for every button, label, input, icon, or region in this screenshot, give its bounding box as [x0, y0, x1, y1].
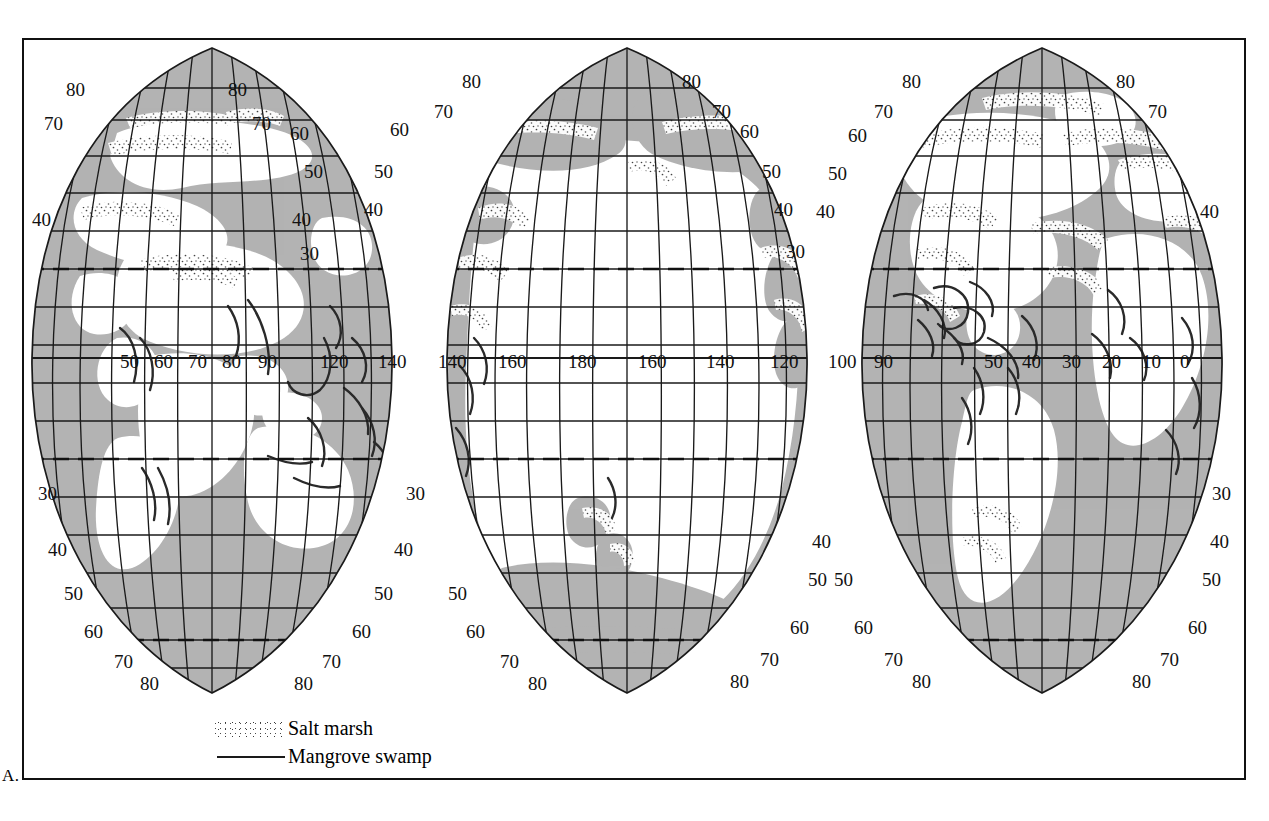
lat-label: 50	[64, 583, 83, 604]
lon-label: 180	[568, 351, 597, 372]
lat-label: 50	[374, 161, 393, 182]
lat-label: 30	[406, 483, 425, 504]
lat-label: 70	[252, 113, 271, 134]
lobe-3-americas-africa	[852, 38, 1246, 780]
lat-label: 40	[32, 209, 51, 230]
lon-label: 160	[498, 351, 527, 372]
lon-label: 90	[258, 351, 277, 372]
lat-label: 50	[834, 569, 853, 590]
lon-label: 100	[828, 351, 857, 372]
lat-label: 50	[304, 161, 323, 182]
lat-label: 70	[712, 101, 731, 122]
world-map-svg: 80 70 40 30 40 50 60 70 80 80 70 60 50 4…	[22, 38, 1246, 780]
lat-label: 80	[140, 673, 159, 694]
lat-label: 80	[682, 71, 701, 92]
lat-label: 70	[434, 101, 453, 122]
lat-label: 60	[290, 123, 309, 144]
lat-label: 80	[528, 673, 547, 694]
lon-label: 20	[1102, 351, 1121, 372]
lat-label: 70	[1148, 101, 1167, 122]
lobe-1-eastern-hemisphere	[22, 38, 442, 780]
mangrove-swamp-swatch-icon	[215, 747, 285, 766]
lat-label: 80	[294, 673, 313, 694]
lon-label: 120	[320, 351, 349, 372]
lon-label: 90	[874, 351, 893, 372]
lat-label: 70	[760, 649, 779, 670]
legend-label-salt-marsh: Salt marsh	[288, 718, 373, 738]
legend-item-mangrove-swamp: Mangrove swamp	[215, 742, 675, 770]
lat-label: 60	[790, 617, 809, 638]
lon-label: 140	[378, 351, 407, 372]
lon-label: 50	[120, 351, 139, 372]
lat-label: 40	[812, 531, 831, 552]
lon-label: 30	[1062, 351, 1081, 372]
lat-label: 60	[466, 621, 485, 642]
lat-label: 70	[44, 113, 63, 134]
lat-label: 30	[300, 243, 319, 264]
lat-label: 70	[884, 649, 903, 670]
lat-label: 40	[364, 199, 383, 220]
figure-letter: A.	[2, 766, 20, 786]
legend-label-mangrove-swamp: Mangrove swamp	[288, 746, 432, 766]
lat-label: 40	[774, 199, 793, 220]
lon-label: 160	[638, 351, 667, 372]
lat-label: 50	[374, 583, 393, 604]
lat-label: 80	[902, 71, 921, 92]
lat-label: 40	[1210, 531, 1229, 552]
legend-item-salt-marsh: Salt marsh	[215, 714, 675, 742]
lat-label: 70	[114, 651, 133, 672]
lat-label: 70	[322, 651, 341, 672]
lat-label: 70	[500, 651, 519, 672]
lat-label: 60	[740, 121, 759, 142]
lat-label: 40	[1200, 201, 1219, 222]
lon-label: 10	[1142, 351, 1161, 372]
lat-label: 80	[228, 79, 247, 100]
lat-label: 60	[352, 621, 371, 642]
lon-label: 0	[1180, 351, 1190, 372]
lat-label: 30	[1212, 483, 1231, 504]
lat-label: 40	[394, 539, 413, 560]
lat-label: 80	[730, 671, 749, 692]
lat-label: 40	[292, 209, 311, 230]
lat-label: 80	[912, 671, 931, 692]
lat-label: 60	[854, 617, 873, 638]
lat-label: 40	[816, 201, 835, 222]
salt-marsh-swatch-icon	[215, 719, 285, 738]
lon-label: 120	[770, 351, 799, 372]
lon-label: 140	[706, 351, 735, 372]
lat-label: 60	[84, 621, 103, 642]
lon-label: 140	[438, 351, 467, 372]
map-legend: Salt marsh Mangrove swamp	[215, 714, 675, 770]
lon-label: 40	[1022, 351, 1041, 372]
lat-label: 30	[786, 241, 805, 262]
lon-label: 50	[984, 351, 1003, 372]
lat-label: 60	[1188, 617, 1207, 638]
lat-label: 80	[462, 71, 481, 92]
lat-label: 70	[874, 101, 893, 122]
lon-label: 70	[188, 351, 207, 372]
lat-label: 30	[38, 483, 57, 504]
lat-label: 50	[762, 161, 781, 182]
lat-label: 50	[448, 583, 467, 604]
lat-label: 50	[828, 163, 847, 184]
lat-label: 40	[48, 539, 67, 560]
lat-label: 60	[848, 125, 867, 146]
lat-label: 50	[808, 569, 827, 590]
lon-label: 80	[222, 351, 241, 372]
lat-label: 60	[390, 119, 409, 140]
lon-label: 60	[154, 351, 173, 372]
lat-label: 50	[1202, 569, 1221, 590]
lat-label: 80	[1116, 71, 1135, 92]
figure-container: A.	[0, 0, 1269, 821]
lat-label: 80	[1132, 671, 1151, 692]
lat-label: 80	[66, 79, 85, 100]
lat-label: 70	[1160, 649, 1179, 670]
